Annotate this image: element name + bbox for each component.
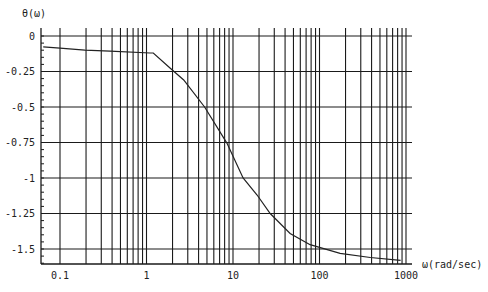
y-tick-labels: 0-0.25-0.5-0.75-1-1.25-1.5 [5,31,35,255]
y-tick-label: -1.25 [5,208,35,219]
x-tick-label: 100 [310,270,328,281]
y-tick-label: 0 [29,31,35,42]
x-tick-label: 10 [227,270,239,281]
y-tick-label: -1 [23,173,35,184]
x-tick-label: 0.1 [51,270,69,281]
x-axis-label: ω(rad/sec) [422,259,482,270]
y-tick-label: -0.25 [5,66,35,77]
vertical-gridlines [60,28,406,264]
phase-curve [43,47,400,261]
y-tick-label: -0.75 [5,137,35,148]
x-tick-label: 1 [143,270,149,281]
phase-plot: 0-0.25-0.5-0.75-1-1.25-1.5 0.11101001000… [0,0,488,292]
x-tick-label: 1000 [394,270,418,281]
y-axis-label: θ(ω) [22,8,46,19]
y-tick-label: -1.5 [11,244,35,255]
x-tick-labels: 0.11101001000 [51,270,418,281]
y-tick-label: -0.5 [11,102,35,113]
